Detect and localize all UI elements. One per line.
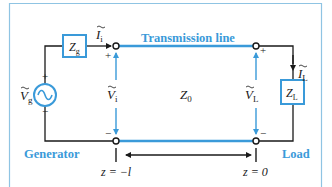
input-terminal-bottom: [113, 138, 119, 144]
zl-sub: L: [293, 93, 298, 102]
source-minus: −: [42, 105, 48, 117]
generator-label: Generator: [24, 147, 80, 161]
il-label: IL: [297, 65, 308, 83]
load-terminal-bottom: [253, 138, 259, 144]
transmission-line-diagram: Zg ZL Transmission line + − + − + − Vg: [0, 0, 332, 187]
svg-text:Ii: Ii: [95, 27, 103, 44]
svg-text:Vg: Vg: [20, 88, 33, 105]
ii-label: Ii: [95, 26, 105, 44]
input-terminal-top: [113, 43, 119, 49]
length-dimension: [116, 148, 256, 162]
source-plus: +: [42, 70, 48, 82]
transmission-line-title: Transmission line: [141, 31, 235, 45]
vi-minus: −: [105, 127, 111, 139]
z-start-label: z = −l: [100, 165, 132, 179]
z-end-label: z = 0: [242, 165, 268, 179]
vi-plus: +: [105, 49, 111, 61]
z0-sub: 0: [187, 94, 192, 104]
z0-label: Z0: [180, 87, 192, 104]
vi-label: Vi: [107, 86, 118, 104]
svg-text:VL: VL: [245, 87, 258, 104]
vg-label: Vg: [20, 87, 33, 105]
ii-sub: i: [100, 34, 103, 44]
ac-source-icon: [34, 84, 56, 106]
load-label: Load: [282, 147, 310, 161]
zg-sub: g: [76, 47, 80, 56]
svg-text:IL: IL: [297, 66, 308, 83]
svg-text:Vi: Vi: [107, 87, 118, 104]
load-terminal-top: [253, 43, 259, 49]
vg-sub: g: [28, 95, 33, 105]
vl-label: VL: [245, 86, 258, 104]
vl-sub: L: [253, 94, 259, 104]
il-sub: L: [302, 73, 308, 83]
vl-plus: +: [260, 44, 266, 56]
vl-minus: −: [260, 127, 266, 139]
vi-sub: i: [115, 94, 118, 104]
